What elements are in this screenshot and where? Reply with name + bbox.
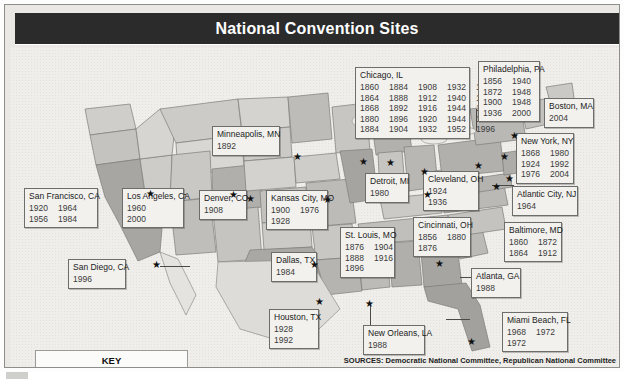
callout-city-label: New Orleans, LA	[368, 328, 420, 339]
year: 1988	[368, 340, 390, 351]
convention-star-marker: ★	[365, 299, 374, 309]
convention-star-marker: ★	[423, 190, 432, 200]
callout-atlanta[interactable]: Atlanta, GA 1988	[471, 268, 521, 298]
convention-star-marker: ★	[420, 167, 429, 177]
year: 1948	[512, 97, 534, 108]
convention-star-marker: ★	[386, 158, 395, 168]
convention-star-marker: ★	[146, 189, 155, 199]
year: 1868	[521, 148, 543, 159]
year: 1968	[507, 327, 529, 338]
year: 1932	[447, 82, 469, 93]
year: 1868	[360, 103, 382, 114]
convention-star-marker: ★	[500, 152, 509, 162]
callout-atlantic-city[interactable]: Atlantic City, NJ 1964	[512, 186, 578, 216]
callout-city-label: Boston, MA	[549, 101, 589, 112]
page-bottom-edge	[0, 372, 624, 381]
year: 1972	[507, 338, 529, 349]
callout-city-label: Dallas, TX	[276, 255, 312, 266]
year: 1944	[447, 103, 469, 114]
callout-baltimore[interactable]: Baltimore, MD 18601872 18641912	[504, 222, 562, 262]
callout-denver[interactable]: Denver, CO 1908	[199, 190, 247, 220]
year: 1964	[58, 203, 80, 214]
year: 1896	[389, 114, 411, 125]
year: 1884	[389, 82, 411, 93]
year: 1876	[345, 242, 367, 253]
year: 1960	[127, 203, 149, 214]
year: 1940	[447, 93, 469, 104]
page-title: National Convention Sites	[215, 20, 418, 38]
callout-city-label: San Diego, CA	[73, 262, 121, 273]
callout-city-label: Kansas City, MO	[271, 193, 323, 204]
callout-city-label: Atlanta, GA	[476, 271, 516, 282]
convention-star-marker: ★	[474, 161, 483, 171]
callout-new-york[interactable]: New York, NY 18681980 19241992 19762004	[516, 133, 574, 184]
convention-star-marker: ★	[467, 337, 476, 347]
year: 1928	[271, 216, 293, 227]
callout-city-label: Detroit, MI	[370, 176, 404, 187]
callout-city-label: Atlantic City, NJ	[517, 189, 573, 200]
callout-boston[interactable]: Boston, MA 2004	[544, 98, 594, 128]
year: 1904	[389, 124, 411, 135]
year: 2004	[550, 169, 572, 180]
year: 1932	[418, 124, 440, 135]
year: 1992	[550, 159, 572, 170]
year: 1884	[360, 124, 382, 135]
year: 1924	[521, 159, 543, 170]
year: 1900	[483, 97, 505, 108]
callout-city-label: Miami Beach, FL	[507, 315, 563, 326]
callout-chicago[interactable]: Chicago, IL 18601884190819321952 1864188…	[355, 67, 470, 139]
year: 1928	[274, 324, 296, 335]
callout-city-label: Cleveland, OH	[428, 174, 474, 185]
convention-star-marker: ★	[246, 194, 255, 204]
year: 1872	[538, 237, 560, 248]
callout-city-label: New York, NY	[521, 136, 569, 147]
year: 1896	[345, 263, 367, 274]
convention-star-marker: ★	[310, 260, 319, 270]
callout-city-label: Baltimore, MD	[509, 225, 557, 236]
convention-star-marker: ★	[293, 152, 302, 162]
year: 1880	[447, 232, 469, 243]
year: 2000	[512, 108, 534, 119]
year: 1860	[509, 237, 531, 248]
year: 1996	[476, 124, 498, 135]
year: 1892	[217, 141, 239, 152]
callout-san-francisco[interactable]: San Francisco, CA 19201964 19561984	[24, 188, 98, 228]
year: 1892	[389, 103, 411, 114]
year: 1984	[276, 267, 298, 278]
callout-st-louis[interactable]: St. Louis, MO 18761904 18881916 1896	[340, 227, 395, 278]
map-canvas: ★ ★ ★ ★ ★ ★ ★ ★ ★ ★ ★ ★ ★ ★ ★ ★ ★ ★ ★ ★ …	[10, 47, 620, 368]
year: 1900	[271, 205, 293, 216]
callout-city-label: Philadelphia, PA	[483, 64, 535, 75]
page-bottom-chip	[6, 372, 28, 379]
callout-kansas-city[interactable]: Kansas City, MO 19001976 1928	[266, 190, 328, 230]
callout-city-label: Houston, TX	[274, 312, 314, 323]
year: 1948	[512, 87, 534, 98]
map-figure-frame: National Convention Sites	[4, 4, 620, 368]
leader-line	[160, 266, 190, 267]
year: 1972	[536, 327, 558, 338]
callout-philadelphia[interactable]: Philadelphia, PA 18561940 18721948 19001…	[478, 61, 540, 122]
convention-star-marker: ★	[505, 174, 514, 184]
callout-minneapolis[interactable]: Minneapolis, MN 1892	[212, 126, 280, 156]
year: 1904	[374, 242, 396, 253]
callout-city-label: San Francisco, CA	[29, 191, 93, 202]
year: 1920	[418, 114, 440, 125]
callout-detroit[interactable]: Detroit, MI 1980	[365, 173, 409, 203]
year: 1864	[509, 248, 531, 259]
year: 1996	[73, 274, 95, 285]
callout-san-diego[interactable]: San Diego, CA 1996	[68, 259, 126, 289]
year: 1980	[370, 188, 392, 199]
convention-star-marker: ★	[315, 297, 324, 307]
callout-miami-beach[interactable]: Miami Beach, FL 19681972 1972	[502, 312, 568, 352]
year: 1888	[389, 93, 411, 104]
figure-title-bar: National Convention Sites	[15, 13, 619, 44]
year: 1872	[483, 87, 505, 98]
callout-city-label: Chicago, IL	[360, 70, 465, 81]
callout-cincinnati[interactable]: Cincinnati, OH 18561880 1876	[413, 217, 471, 257]
convention-star-marker: ★	[229, 190, 238, 200]
year: 1916	[418, 103, 440, 114]
callout-new-orleans[interactable]: New Orleans, LA 1988	[363, 325, 425, 355]
leader-line	[446, 319, 470, 320]
callout-houston[interactable]: Houston, TX 1928 1992	[269, 309, 319, 349]
year: 2000	[127, 214, 149, 225]
